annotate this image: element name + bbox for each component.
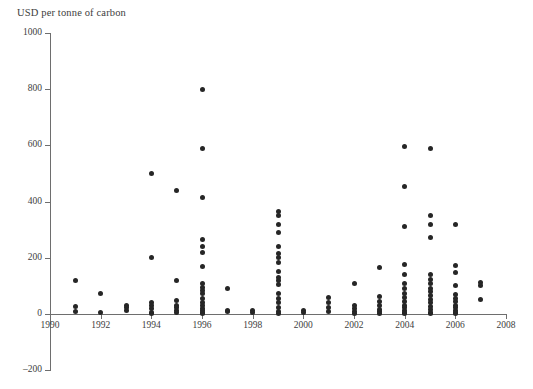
data-point [276,222,281,227]
data-point [276,230,281,235]
data-point [276,260,281,265]
x-tick-label: 2000 [283,321,323,331]
data-point [200,237,205,242]
data-point [149,255,154,260]
data-point [402,286,407,291]
y-tick-mark [45,202,50,203]
y-tick-mark [45,89,50,90]
data-point [200,195,205,200]
data-point [402,311,407,316]
data-point [453,283,458,288]
data-point [73,304,78,309]
data-point [200,87,205,92]
data-point [402,281,407,286]
data-point [402,184,407,189]
data-point [149,171,154,176]
data-point [200,250,205,255]
data-point [453,222,458,227]
data-point [276,311,281,316]
scatter-chart: USD per tonne of carbon 1000800600400200… [0,0,533,389]
data-point [428,311,433,316]
data-point [428,146,433,151]
data-point [453,270,458,275]
data-point [276,213,281,218]
x-tick-mark [506,314,507,319]
data-point [200,264,205,269]
data-point [428,222,433,227]
data-point [174,188,179,193]
x-tick-label: 2006 [435,321,475,331]
data-point [402,262,407,267]
x-tick-label: 2004 [385,321,425,331]
y-tick-mark [45,145,50,146]
data-point [377,265,382,270]
y-tick-label: –200 [0,365,42,375]
data-point [453,263,458,268]
data-point [453,311,458,316]
data-point [149,311,154,316]
y-tick-label: 400 [0,197,42,207]
data-point [326,300,331,305]
data-point [200,311,205,316]
y-tick-mark [45,370,50,371]
data-point [174,278,179,283]
x-tick-mark [50,314,51,319]
x-tick-label: 2002 [334,321,374,331]
data-point [478,297,483,302]
x-tick-label: 1992 [81,321,121,331]
data-point [377,311,382,316]
y-tick-mark [45,33,50,34]
plot-area: 10008006004002000–200 199019921994199619… [0,0,533,389]
data-point [402,272,407,277]
data-point [352,281,357,286]
y-tick-label: 800 [0,84,42,94]
x-tick-label: 1998 [233,321,273,331]
data-point [200,244,205,249]
data-point [276,282,281,287]
data-point [124,308,129,313]
data-point [326,295,331,300]
data-point [98,291,103,296]
data-point [428,235,433,240]
data-point [276,244,281,249]
x-tick-label: 1990 [30,321,70,331]
data-point [402,224,407,229]
y-tick-label: 0 [0,309,42,319]
x-tick-label: 2008 [486,321,526,331]
y-tick-mark [45,258,50,259]
y-tick-label: 200 [0,253,42,263]
data-point [428,213,433,218]
data-point [402,144,407,149]
data-point [225,286,230,291]
data-point [276,269,281,274]
data-point [478,283,483,288]
data-point [73,278,78,283]
x-tick-label: 1994 [131,321,171,331]
y-tick-label: 600 [0,140,42,150]
data-point [352,311,357,316]
data-point [200,146,205,151]
y-tick-label: 1000 [0,28,42,38]
x-tick-label: 1996 [182,321,222,331]
